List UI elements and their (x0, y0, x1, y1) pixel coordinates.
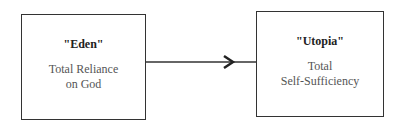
eden-desc-line2: on God (22, 77, 145, 92)
utopia-title: "Utopia" (257, 34, 383, 49)
utopia-desc-line2: Self-Sufficiency (257, 74, 383, 89)
eden-box: "Eden" Total Reliance on God (21, 14, 146, 120)
eden-desc-line1: Total Reliance (22, 62, 145, 77)
utopia-box: "Utopia" Total Self-Sufficiency (256, 11, 384, 117)
eden-description: Total Reliance on God (22, 62, 145, 92)
eden-title: "Eden" (22, 37, 145, 52)
utopia-desc-line1: Total (257, 59, 383, 74)
utopia-description: Total Self-Sufficiency (257, 59, 383, 89)
